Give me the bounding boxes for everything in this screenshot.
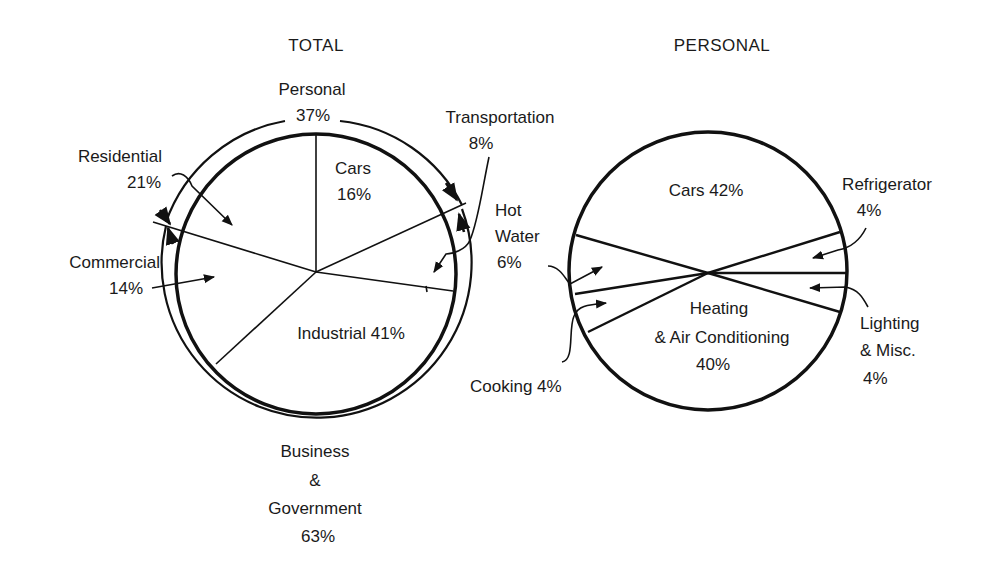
refrigerator-label: Refrigerator — [842, 175, 932, 194]
spoke-cars-transportation — [316, 203, 466, 272]
spoke-cars-hotwater — [576, 235, 708, 273]
tick-mark — [426, 286, 427, 292]
cooking-label: Cooking 4% — [470, 377, 562, 396]
heating-label-line2: & Air Conditioning — [654, 328, 789, 347]
personal-group-label: Personal — [278, 80, 345, 99]
personal-pie-chart: PERSONAL Cars 42% Refrigerator 4% Hot Wa… — [470, 36, 932, 410]
personal-group-arc — [166, 121, 285, 222]
total-pie-chart: TOTAL Personal 37% Cars 16% Transportati… — [69, 36, 554, 546]
heating-value: 40% — [696, 355, 730, 374]
lighting-pointer-arrow — [810, 287, 868, 307]
hot-water-value: 6% — [497, 253, 522, 272]
total-chart-title: TOTAL — [288, 36, 344, 55]
lighting-label-line1: Lighting — [860, 314, 920, 333]
residential-pointer-arrow — [172, 174, 232, 225]
refrigerator-value: 4% — [857, 201, 882, 220]
spoke-transportation-industrial — [316, 272, 453, 291]
business-arc-arrow-right — [459, 214, 464, 232]
cars-value: 16% — [337, 185, 371, 204]
business-government-label-line1: Business — [281, 442, 350, 461]
heating-label-line1: Heating — [690, 299, 749, 318]
commercial-label: Commercial — [69, 253, 160, 272]
commercial-value: 14% — [109, 279, 143, 298]
lighting-label-line2: & Misc. — [860, 341, 916, 360]
spoke-industrial-commercial — [216, 272, 316, 364]
business-government-label-line3: Government — [268, 499, 362, 518]
hot-water-label-line1: Hot — [495, 201, 522, 220]
residential-value: 21% — [127, 173, 161, 192]
cars-personal-label: Cars 42% — [669, 181, 744, 200]
hot-water-label-line2: Water — [495, 227, 540, 246]
lighting-value: 4% — [863, 369, 888, 388]
business-government-label-line2: & — [309, 471, 321, 490]
personal-chart-title: PERSONAL — [674, 36, 771, 55]
residential-label: Residential — [78, 147, 162, 166]
hot-water-pointer-arrow — [548, 266, 602, 284]
spoke-cars-refrigerator — [708, 232, 840, 273]
industrial-label: Industrial 41% — [297, 324, 405, 343]
chart-canvas: TOTAL Personal 37% Cars 16% Transportati… — [0, 0, 986, 575]
transportation-label: Transportation — [446, 108, 555, 127]
business-arc-arrow-left — [168, 228, 173, 244]
cars-label: Cars — [335, 159, 371, 178]
transportation-value: 8% — [469, 134, 494, 153]
personal-group-value: 37% — [296, 106, 330, 125]
business-government-value: 63% — [301, 527, 335, 546]
